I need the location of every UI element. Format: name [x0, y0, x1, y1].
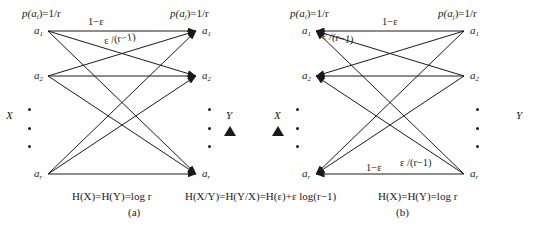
panel-b-weight-correct-bottom: 1−ε — [366, 163, 382, 174]
panel-b-weight-error-bottom: ε /(r−1) — [400, 158, 432, 169]
prob-prefix: p(a — [438, 7, 453, 19]
panel-a-node-right-a1: a1 — [202, 25, 211, 36]
panel-b-node-left-ar: ar — [302, 168, 310, 179]
panel-a-target-probability: p(aj)=1/r — [170, 8, 209, 19]
prob-subscript: j — [185, 13, 187, 21]
panel-a-node-left-ar: ar — [34, 168, 42, 179]
prob-suffix: )=1/r — [187, 7, 209, 19]
panel-a-set-name-y: Y — [226, 110, 232, 121]
panel-b-source-triangle-marker — [272, 126, 284, 136]
panel-b-target-probability: p(aj)=1/r — [438, 8, 477, 19]
panel-a-node-left-a1: a1 — [34, 25, 43, 36]
panel-b-node-left-a2: a2 — [302, 70, 311, 81]
panel-b-left-ellipsis-dots — [296, 108, 299, 148]
prob-subscript: j — [453, 13, 455, 21]
panel-b-right-ellipsis-dots — [476, 108, 479, 148]
prob-subscript: i — [305, 13, 307, 21]
prob-prefix: p(a — [290, 7, 305, 19]
panel-a-source-probability: p(ai)=1/r — [22, 8, 61, 19]
panel-b-tag: (b) — [396, 207, 409, 218]
panel-b-caption-entropy: H(X)=H(Y)=log r — [378, 191, 457, 202]
panel-b-node-right-a1: a1 — [470, 25, 479, 36]
panel-a-node-left-a2: a2 — [34, 70, 43, 81]
panel-a-weight-correct: 1−ε — [88, 17, 104, 28]
panel-b-set-name-x: X — [274, 110, 281, 121]
panel-a-node-right-a2: a2 — [202, 70, 211, 81]
prob-suffix: )=1/r — [307, 7, 329, 19]
panel-b-node-right-ar: ar — [470, 168, 478, 179]
panel-a-caption-entropy: H(X)=H(Y)=log r — [72, 191, 151, 202]
panel-b-source-probability: p(ai)=1/r — [290, 8, 329, 19]
panel-b-node-left-a1: a1 — [302, 25, 311, 36]
panel-a-right-ellipsis-dots — [208, 108, 211, 148]
panel-a-target-triangle-marker — [224, 126, 236, 136]
panel-a-left-ellipsis-dots — [28, 108, 31, 148]
panel-a-tag: (a) — [128, 207, 140, 218]
panel-a-set-name-x: X — [6, 110, 13, 121]
figure-canvas: p(ai)=1/r p(aj)=1/r a1 a2 ar a1 a2 ar 1−… — [0, 0, 536, 228]
prob-suffix: )=1/r — [39, 7, 61, 19]
prob-prefix: p(a — [170, 7, 185, 19]
panel-a-caption-conditional: H(X/Y)=H(Y/X)=H(ε)+ε log(r−1) — [185, 191, 336, 202]
prob-suffix: )=1/r — [455, 7, 477, 19]
panel-a-node-right-ar: ar — [202, 168, 210, 179]
panel-b-node-right-a2: a2 — [470, 70, 479, 81]
prob-subscript: i — [37, 13, 39, 21]
panel-b-weight-correct-top: 1−ε — [382, 17, 398, 28]
prob-prefix: p(a — [22, 7, 37, 19]
panel-b-set-name-y: Y — [516, 110, 522, 121]
